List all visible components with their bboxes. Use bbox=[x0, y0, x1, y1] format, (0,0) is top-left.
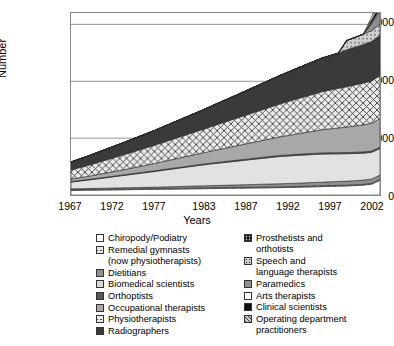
legend-swatch-icon bbox=[96, 280, 104, 288]
legend-right-item[interactable]: Clinical scientists bbox=[244, 302, 394, 313]
legend-swatch-icon bbox=[244, 303, 252, 311]
x-tick-label-1967: 1967 bbox=[50, 200, 90, 212]
legend-column-right: Prosthetists and orthotistsSpeech and la… bbox=[244, 233, 394, 337]
legend-swatch-icon bbox=[244, 280, 252, 288]
legend-right-item[interactable]: Operating department practitioners bbox=[244, 314, 394, 337]
legend-label: Dietitians bbox=[108, 268, 146, 279]
legend-swatch-icon bbox=[96, 327, 104, 335]
chart-legend: Chiropody/PodiatryRemedial gymnasts (now… bbox=[0, 233, 394, 343]
legend-right-item[interactable]: Prosthetists and orthotists bbox=[244, 233, 394, 256]
stacked-area-svg bbox=[71, 13, 380, 195]
legend-left-item[interactable]: Biomedical scientists bbox=[96, 279, 226, 290]
area-bands bbox=[71, 13, 380, 195]
x-tick-label-1972: 1972 bbox=[92, 200, 132, 212]
legend-label: Remedial gymnasts (now physiotherapists) bbox=[108, 245, 201, 268]
legend-label: Clinical scientists bbox=[256, 302, 327, 313]
legend-label: Radiographers bbox=[108, 326, 169, 337]
legend-swatch-icon bbox=[244, 315, 252, 323]
legend-label: Paramedics bbox=[256, 279, 305, 290]
legend-label: Physiotherapists bbox=[108, 314, 176, 325]
legend-label: Chiropody/Podiatry bbox=[108, 233, 187, 244]
legend-swatch-icon bbox=[96, 246, 104, 254]
legend-left-item[interactable]: Radiographers bbox=[96, 326, 226, 337]
legend-left-item[interactable]: Orthoptists bbox=[96, 291, 226, 302]
legend-swatch-icon bbox=[96, 292, 104, 300]
legend-left-item[interactable]: Occupational therapists bbox=[96, 303, 226, 314]
legend-label: Prosthetists and orthotists bbox=[256, 233, 323, 256]
x-tick-label-1997: 1997 bbox=[310, 200, 350, 212]
legend-left-item[interactable]: Physiotherapists bbox=[96, 314, 226, 325]
y-axis-title: Number bbox=[0, 39, 8, 78]
legend-swatch-icon bbox=[96, 269, 104, 277]
x-axis-title: Years bbox=[0, 214, 394, 226]
legend-swatch-icon bbox=[244, 257, 252, 265]
legend-label: Speech and language therapists bbox=[256, 256, 337, 279]
legend-label: Orthoptists bbox=[108, 291, 153, 302]
legend-left-item[interactable]: Remedial gymnasts (now physiotherapists) bbox=[96, 245, 226, 268]
x-tick-label-1983: 1983 bbox=[184, 200, 224, 212]
x-tick-label-1987: 1987 bbox=[226, 200, 266, 212]
legend-column-left: Chiropody/PodiatryRemedial gymnasts (now… bbox=[96, 233, 226, 338]
legend-right-item[interactable]: Speech and language therapists bbox=[244, 256, 394, 279]
legend-left-item[interactable]: Dietitians bbox=[96, 268, 226, 279]
chart-area: Number 150 000 100 000 50 000 0 bbox=[0, 0, 394, 228]
legend-label: Biomedical scientists bbox=[108, 279, 194, 290]
x-tick-label-1977: 1977 bbox=[134, 200, 174, 212]
chart-figure: Number 150 000 100 000 50 000 0 bbox=[0, 0, 394, 346]
x-tick-label-1992: 1992 bbox=[268, 200, 308, 212]
legend-swatch-icon bbox=[96, 315, 104, 323]
plot-area bbox=[70, 12, 381, 196]
legend-swatch-icon bbox=[96, 304, 104, 312]
x-tick-label-2002: 2002 bbox=[352, 200, 392, 212]
legend-label: Arts therapists bbox=[256, 291, 315, 302]
legend-swatch-icon bbox=[96, 234, 104, 242]
legend-right-item[interactable]: Arts therapists bbox=[244, 291, 394, 302]
legend-swatch-icon bbox=[244, 292, 252, 300]
legend-label: Operating department practitioners bbox=[256, 314, 346, 337]
legend-swatch-icon bbox=[244, 234, 252, 242]
legend-left-item[interactable]: Chiropody/Podiatry bbox=[96, 233, 226, 244]
legend-label: Occupational therapists bbox=[108, 303, 205, 314]
legend-right-item[interactable]: Paramedics bbox=[244, 279, 394, 290]
